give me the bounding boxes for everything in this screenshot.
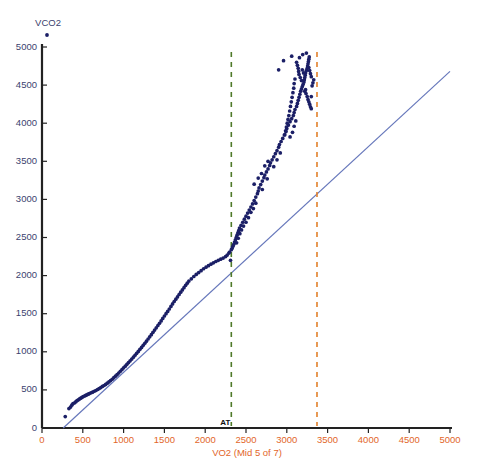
data-point [292,124,296,128]
scatter-plot: 0500100015002000250030003500400045005000… [0,0,484,467]
data-point [289,105,293,109]
data-point [254,201,258,205]
data-point [304,88,308,92]
x-tick-label: 4500 [399,434,420,445]
x-tick-label: 3500 [317,434,338,445]
data-point [312,78,316,82]
data-point-marker-icon [45,33,49,37]
y-tick-label: 2500 [16,231,37,242]
annotation-group: AT [220,418,230,427]
data-point [290,54,294,58]
data-point [251,202,255,206]
data-point [240,228,244,232]
data-point [256,176,260,180]
data-point [275,158,279,162]
data-point [307,66,311,70]
data-point [251,207,255,211]
y-tick-label: 1500 [16,307,37,318]
data-point [265,177,269,181]
data-point [294,119,298,123]
data-point [289,100,293,104]
data-point [309,95,313,99]
y-tick-label: 4500 [16,79,37,90]
data-point [275,149,279,153]
data-point [247,216,251,220]
data-point [285,121,289,125]
data-point [291,91,295,95]
x-tick-label: 2000 [195,434,216,445]
x-tick-label: 4000 [358,434,379,445]
x-tick-label: 500 [75,434,91,445]
chart-container: 0500100015002000250030003500400045005000… [0,0,484,467]
data-point [229,259,233,263]
data-point [63,415,67,419]
data-point [260,179,264,183]
at-annotation-label: AT [220,418,230,427]
data-point [295,60,299,64]
data-point [290,95,294,99]
data-point [266,167,270,171]
data-point [285,125,289,129]
data-point [302,71,306,75]
data-point [266,159,270,163]
data-point [283,133,287,137]
y-tick-label: 5000 [16,41,37,52]
data-point [254,195,258,199]
data-point [260,188,264,192]
data-point [307,55,311,59]
x-tick-label: 3000 [276,434,297,445]
y-tick-label: 0 [32,422,37,433]
data-point [305,51,309,55]
data-point [292,82,296,86]
y-tick-label: 2000 [16,269,37,280]
data-point [288,109,292,113]
data-point [293,77,297,81]
data-point [287,114,291,118]
y-axis-title: VCO2 [35,17,61,28]
data-point [277,68,281,72]
data-point [252,182,256,186]
data-point [298,56,302,60]
data-point [235,241,239,245]
plot-background [0,0,484,467]
data-point [291,130,295,134]
data-point [242,224,246,228]
y-tick-label: 500 [21,383,37,394]
data-point [272,165,276,169]
data-point [236,236,240,240]
x-tick-label: 1000 [113,434,134,445]
data-point [259,183,263,187]
x-axis-title: VO2 (Mid 5 of 7) [212,447,282,458]
data-point [309,107,313,111]
data-point [257,186,261,190]
data-point [282,59,286,63]
data-point [288,135,292,139]
x-tick-label: 2500 [235,434,256,445]
x-tick-label: 0 [39,434,44,445]
y-tick-label: 1000 [16,345,37,356]
y-tick-label: 4000 [16,117,37,128]
y-tick-label: 3500 [16,155,37,166]
data-point [301,53,305,57]
x-tick-label: 1500 [154,434,175,445]
data-point [284,129,288,133]
data-point [244,220,248,224]
data-point [281,137,285,141]
data-point [286,118,290,122]
data-point [278,151,282,155]
data-point [263,164,267,168]
data-point [238,232,242,236]
y-tick-label: 3000 [16,193,37,204]
x-tick-label: 5000 [439,434,460,445]
data-point [249,211,253,215]
data-point [292,86,296,90]
data-point [260,172,264,176]
